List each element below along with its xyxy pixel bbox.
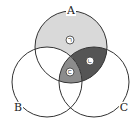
- label-c: C: [120, 101, 128, 114]
- svg-text:ㄷ: ㄷ: [67, 68, 73, 75]
- svg-text:ㄴ: ㄴ: [87, 57, 93, 64]
- marker-a-b-c: ㄷ: [66, 68, 74, 76]
- marker-a-only: ㄱ: [66, 36, 74, 44]
- svg-text:ㄱ: ㄱ: [67, 36, 73, 43]
- label-b: B: [14, 101, 22, 114]
- label-a: A: [66, 4, 76, 17]
- marker-a-c-only: ㄴ: [86, 57, 94, 65]
- venn-diagram: A B C ㄱ ㄴ ㄷ: [0, 0, 137, 129]
